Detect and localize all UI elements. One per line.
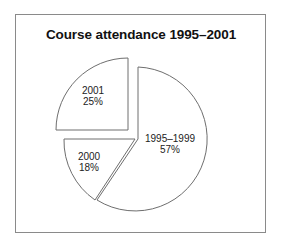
pie-chart <box>0 0 282 245</box>
slice-1995-1999-percent: 57% <box>140 144 200 155</box>
slice-label-1995-1999: 1995–1999 57% <box>140 133 200 155</box>
slice-1995-1999-name: 1995–1999 <box>140 133 200 144</box>
slice-label-2001: 2001 25% <box>63 85 123 107</box>
slice-2000-percent: 18% <box>59 162 119 173</box>
slice-2001-percent: 25% <box>63 96 123 107</box>
slice-2000-name: 2000 <box>59 151 119 162</box>
slice-2001-name: 2001 <box>63 85 123 96</box>
slice-label-2000: 2000 18% <box>59 151 119 173</box>
